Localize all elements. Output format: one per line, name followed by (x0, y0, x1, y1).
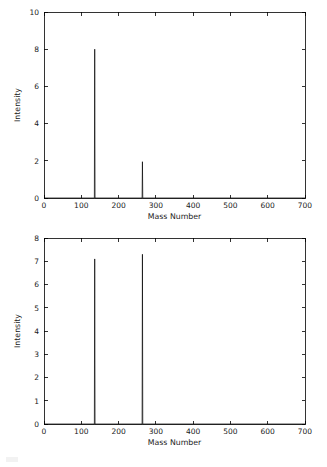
x-tick-label: 400 (186, 427, 201, 436)
x-tick-label: 700 (298, 201, 313, 210)
y-tick-label: 5 (34, 304, 39, 313)
x-tick-label: 600 (261, 201, 276, 210)
y-tick-label: 8 (34, 45, 39, 54)
x-tick-label: 600 (261, 427, 276, 436)
y-tick-label: 4 (34, 119, 39, 128)
x-tick-label: 0 (42, 427, 47, 436)
x-tick-label: 300 (149, 427, 164, 436)
mass-spectrum-chart-bottom: 0100200300400500600700012345678Mass Numb… (0, 228, 327, 467)
spectrum-trace (44, 254, 305, 424)
mass-spectrum-chart-top: 01002003004005006007000246810Mass Number… (0, 0, 327, 228)
x-axis-label: Mass Number (148, 438, 202, 447)
y-tick-label: 10 (29, 8, 39, 17)
y-tick-label: 0 (34, 194, 39, 203)
y-tick-label: 2 (34, 373, 39, 382)
plot-frame (44, 12, 305, 198)
x-tick-label: 200 (111, 201, 126, 210)
x-axis-label: Mass Number (148, 212, 202, 221)
page-artifact (6, 457, 18, 462)
chart-panel-top: 01002003004005006007000246810Mass Number… (0, 0, 327, 228)
x-tick-label: 700 (298, 427, 313, 436)
spectrum-trace (44, 49, 305, 198)
x-tick-label: 300 (149, 201, 164, 210)
y-tick-label: 6 (34, 280, 39, 289)
chart-panel-bottom: 0100200300400500600700012345678Mass Numb… (0, 228, 327, 467)
y-axis-label: Intensity (13, 88, 22, 122)
spectra-figure: 01002003004005006007000246810Mass Number… (0, 0, 327, 467)
y-tick-label: 1 (34, 397, 39, 406)
y-tick-label: 0 (34, 420, 39, 429)
y-tick-label: 2 (34, 157, 39, 166)
x-tick-label: 0 (42, 201, 47, 210)
y-tick-label: 4 (34, 327, 39, 336)
x-tick-label: 400 (186, 201, 201, 210)
x-tick-label: 500 (223, 201, 238, 210)
plot-frame (44, 238, 305, 424)
x-tick-label: 200 (111, 427, 126, 436)
y-tick-label: 8 (34, 234, 39, 243)
x-tick-label: 100 (74, 427, 89, 436)
x-tick-label: 500 (223, 427, 238, 436)
y-tick-label: 6 (34, 82, 39, 91)
y-tick-label: 3 (34, 350, 39, 359)
y-tick-label: 7 (34, 257, 39, 266)
x-tick-label: 100 (74, 201, 89, 210)
y-axis-label: Intensity (13, 314, 22, 348)
